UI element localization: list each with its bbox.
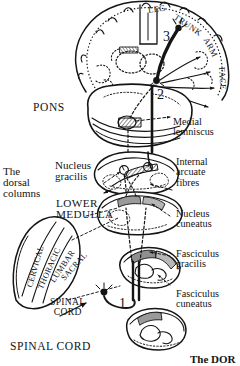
figure-canvas: LEG TRUNK ARM FACE 3 2 1 PONS The dorsal… xyxy=(0,0,240,366)
label-fasciculus-gracilis: Fasciculus gracilis xyxy=(176,249,219,270)
label-spinal-cord-low: SPINAL CORD xyxy=(10,341,91,353)
spinal-cord-lower-section xyxy=(127,308,187,350)
label-fasciculus-cuneatus: Fasciculus cuneatus xyxy=(176,289,219,310)
spinal-cord-upper-section xyxy=(120,247,180,288)
label-nucleus-gracilis: Nucleus gracilis xyxy=(55,160,91,182)
label-dorsal-columns: The dorsal columns xyxy=(3,166,40,200)
caption-partial: The DOR xyxy=(190,354,236,365)
neuron-marker-2: 2 xyxy=(157,88,164,102)
homunculus-label-face: FACE xyxy=(217,67,229,91)
thalamocortical-hatching xyxy=(120,47,138,53)
neuron-marker-3: 3 xyxy=(163,30,170,44)
label-medial-lemniscus: Medial lemniscus xyxy=(173,117,214,138)
label-nucleus-cuneatus: Nucleus cuneatus xyxy=(176,209,212,230)
label-spinal-cord-mid: SPINAL CORD xyxy=(50,297,85,317)
neuron-marker-1: 1 xyxy=(119,297,126,311)
label-pons: PONS xyxy=(33,102,65,114)
label-internal-arcuate-fibres: Internal arcuate fibres xyxy=(176,157,208,188)
label-lower-medulla: LOWER MEDULLA xyxy=(56,198,114,221)
medial-lemniscus-pons xyxy=(119,118,141,127)
